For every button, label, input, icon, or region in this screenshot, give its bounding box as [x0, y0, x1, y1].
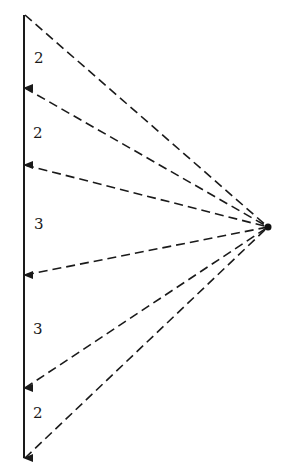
- rays: [25, 15, 268, 458]
- segment-label-3: 3: [34, 215, 44, 233]
- ray-1: [25, 15, 268, 227]
- segment-label-1: 2: [34, 49, 44, 67]
- segment-label-4: 3: [33, 320, 43, 338]
- pole-point: [265, 224, 272, 231]
- segment-label-5: 2: [33, 404, 43, 422]
- ray-5: [25, 227, 268, 388]
- diagram-canvas: 2 2 3 3 2: [0, 0, 292, 472]
- segment-label-2: 2: [33, 124, 43, 142]
- ray-4: [25, 227, 268, 275]
- ray-6: [25, 227, 268, 458]
- ray-2: [25, 88, 268, 227]
